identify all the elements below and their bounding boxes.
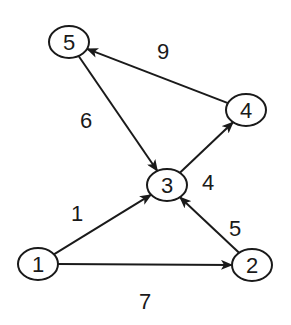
graph-canvas: 175496 12345 bbox=[0, 0, 291, 325]
edge-weight-label: 4 bbox=[202, 170, 214, 195]
node-label: 2 bbox=[246, 253, 258, 278]
node-4: 4 bbox=[226, 94, 266, 126]
node-5: 5 bbox=[49, 26, 89, 58]
node-label: 1 bbox=[32, 252, 44, 277]
node-label: 3 bbox=[161, 173, 173, 198]
edge-weight-label: 9 bbox=[157, 39, 169, 64]
node-label: 4 bbox=[240, 98, 252, 123]
edge-weight-label: 7 bbox=[139, 289, 151, 314]
edge-1-to-2 bbox=[58, 264, 232, 265]
edge-weight-label: 1 bbox=[71, 201, 83, 226]
edges-layer bbox=[54, 49, 239, 265]
edge-weight-label: 5 bbox=[229, 216, 241, 241]
node-1: 1 bbox=[18, 248, 58, 280]
edge-3-to-4 bbox=[180, 122, 233, 173]
node-label: 5 bbox=[63, 30, 75, 55]
node-3: 3 bbox=[147, 169, 187, 201]
edge-weight-label: 6 bbox=[80, 108, 92, 133]
edge-1-to-3 bbox=[54, 195, 151, 255]
node-2: 2 bbox=[232, 249, 272, 281]
